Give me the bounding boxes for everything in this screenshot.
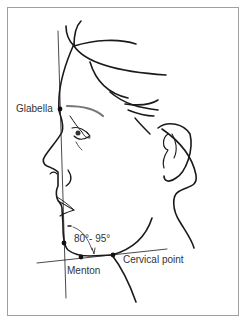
- chin-point: [62, 241, 67, 246]
- glabella-label: Glabella: [16, 103, 53, 114]
- menton-label: Menton: [67, 265, 100, 276]
- eye: [72, 127, 90, 139]
- eyebrow: [67, 106, 103, 116]
- jawline: [112, 218, 152, 255]
- face-profile: [43, 44, 112, 256]
- profile-drawing: [0, 0, 248, 325]
- menton-point: [79, 255, 84, 260]
- cervical-point: [111, 253, 116, 258]
- glabella-point: [58, 107, 63, 112]
- cervical-point-label: Cervical point: [123, 254, 184, 265]
- angle-label: 80°- 95°: [74, 233, 110, 244]
- vertical-reference-line: [58, 31, 66, 298]
